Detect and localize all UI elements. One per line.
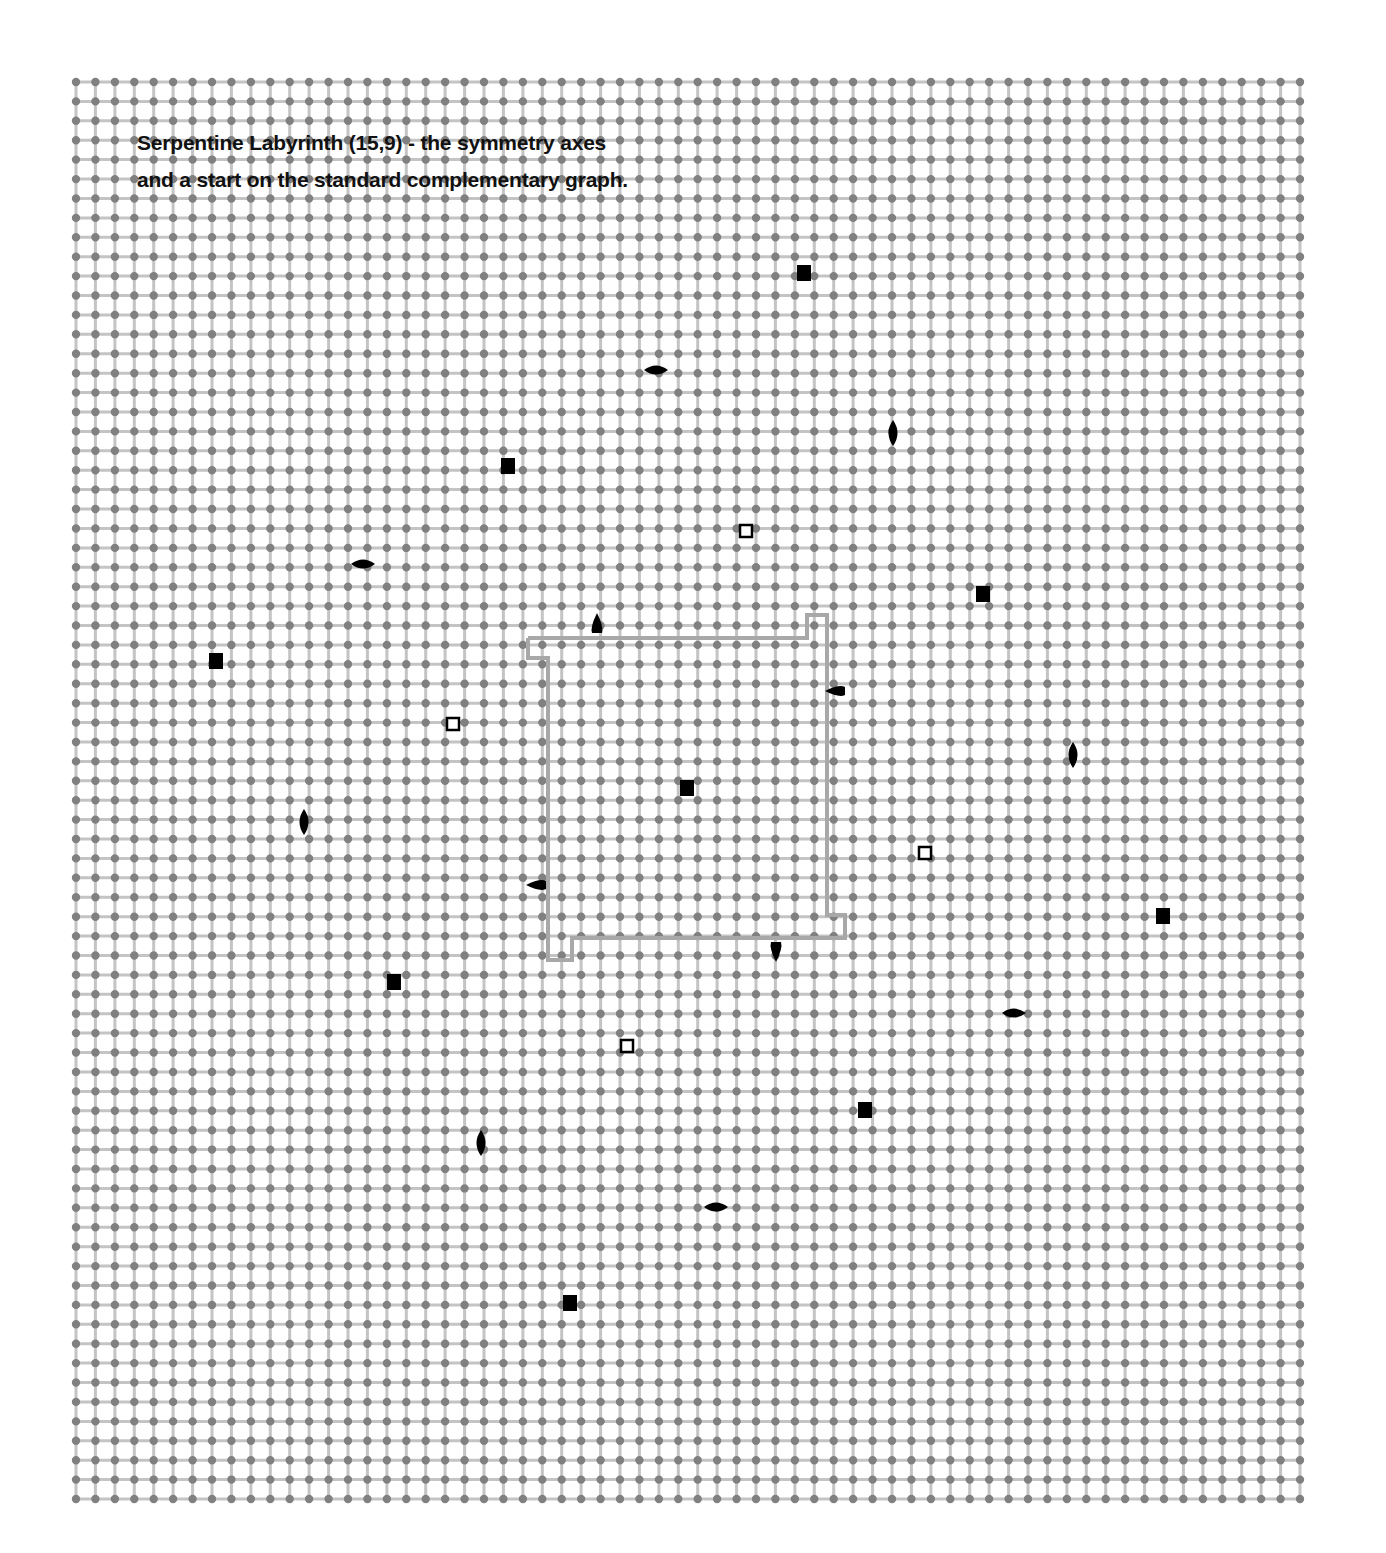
symmetry-markers [209,265,1170,1311]
filled-square-icon [797,265,811,281]
filled-square-icon [1156,908,1170,924]
labyrinth-diagram [0,0,1386,1553]
filled-square-icon [680,780,694,796]
vertical-lens-icon [300,809,309,835]
half-lens-down-icon [771,942,782,962]
half-lens-left-icon [526,880,546,890]
filled-square-icon [501,458,515,474]
open-square-icon [621,1040,633,1052]
title-line-1: Serpentine Labyrinth (15,9) - the symmet… [137,124,628,161]
open-square-icon [919,847,931,859]
filled-square-icon [209,653,223,669]
diagram-title: Serpentine Labyrinth (15,9) - the symmet… [137,124,628,198]
filled-square-icon [858,1102,872,1118]
horizontal-lens-icon [704,1203,728,1212]
title-line-2: and a start on the standard complementar… [137,161,628,198]
open-square-icon [447,718,459,730]
filled-square-icon [387,974,401,990]
filled-square-icon [976,586,990,602]
open-square-icon [740,525,752,537]
vertical-lens-icon [889,420,898,446]
filled-square-icon [563,1295,577,1311]
